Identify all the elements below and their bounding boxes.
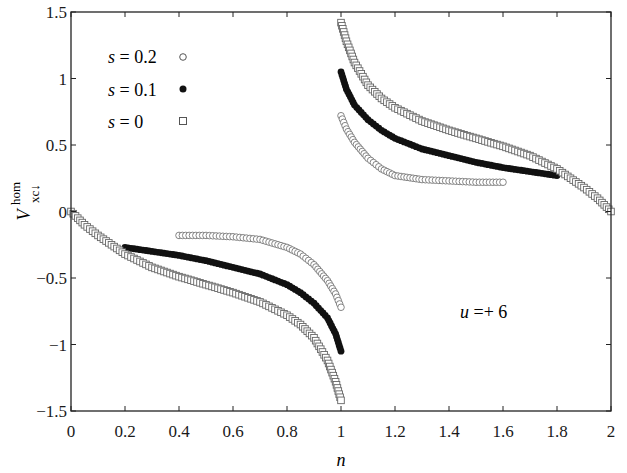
y-tick-label: −0.5 [36, 269, 67, 288]
data-point [338, 348, 345, 355]
legend-item-s0: s = 0 [108, 112, 187, 132]
x-tick-label: 0 [67, 422, 76, 441]
axis-ticks: 00.20.40.60.811.21.41.61.82−1.5−1−0.500.… [36, 3, 615, 441]
svg-text:xc↓: xc↓ [27, 184, 42, 203]
data-point [500, 179, 507, 186]
legend-label: s = 0 [108, 112, 143, 132]
chart: 00.20.40.60.811.21.41.61.82−1.5−1−0.500.… [0, 0, 627, 473]
legend-label: s = 0.1 [108, 80, 157, 100]
x-axis-label: n [337, 450, 346, 470]
annotation-u: u =+ 6 [460, 302, 507, 322]
open-circle-marker-icon [180, 54, 187, 61]
legend-label: s = 0.2 [108, 47, 157, 67]
series-s-0-2 [176, 112, 507, 310]
x-tick-label: 0.6 [222, 422, 243, 441]
data-point [338, 397, 345, 404]
x-tick-label: 0.8 [276, 422, 297, 441]
x-tick-label: 1.2 [384, 422, 405, 441]
y-tick-label: −1 [49, 336, 67, 355]
x-tick-label: 0.2 [114, 422, 135, 441]
x-tick-label: 2 [607, 422, 616, 441]
filled-circle-marker-icon [180, 86, 187, 93]
y-tick-label: 0 [59, 203, 68, 222]
svg-text:V: V [14, 208, 34, 221]
x-tick-label: 0.4 [168, 422, 190, 441]
x-tick-label: 1.6 [492, 422, 513, 441]
open-square-marker-icon [180, 118, 187, 125]
legend-item-s01: s = 0.1 [108, 80, 187, 100]
y-tick-label: 0.5 [46, 136, 67, 155]
x-tick-label: 1 [337, 422, 346, 441]
y-axis-label: V xc↓ hom [8, 182, 42, 221]
x-tick-label: 1.4 [438, 422, 460, 441]
legend-item-s02: s = 0.2 [108, 47, 186, 67]
data-point [338, 304, 345, 311]
data-series-layer [68, 19, 615, 403]
svg-text:hom: hom [8, 182, 23, 205]
legend: s = 0.2 s = 0.1 s = 0 [108, 47, 187, 132]
y-tick-label: −1.5 [36, 402, 67, 421]
y-tick-label: 1.5 [46, 3, 67, 22]
y-tick-label: 1 [59, 70, 68, 89]
x-tick-label: 1.8 [546, 422, 567, 441]
